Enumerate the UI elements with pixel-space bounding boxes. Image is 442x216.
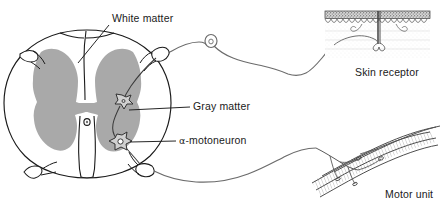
label-motor-unit: Motor unit xyxy=(385,188,433,200)
efferent-axon-to-muscle xyxy=(154,148,316,182)
skin-receptor-inset xyxy=(325,11,430,58)
motor-unit-inset xyxy=(312,126,440,197)
ventral-fissure-right xyxy=(93,116,95,177)
dorsal-median-sulcus xyxy=(84,31,86,100)
spinal-cord-cross-section xyxy=(4,30,171,178)
ventral-fissure-left xyxy=(79,116,81,177)
dorsal-root-proximal xyxy=(170,42,209,52)
ventral-rootlet-left xyxy=(24,162,57,178)
gray-commissure xyxy=(75,103,100,112)
dorsal-root-ganglion xyxy=(205,35,217,48)
gray-matter-left-horn xyxy=(33,49,88,151)
central-canal-lumen xyxy=(86,121,88,124)
spinal-reflex-arc-figure: White matter Gray matter α-motoneuron Sk… xyxy=(0,0,442,216)
label-motoneuron-text: motoneuron xyxy=(189,134,247,146)
label-skin-receptor: Skin receptor xyxy=(355,66,419,78)
gray-matter-right-horn xyxy=(85,49,141,152)
label-gray-matter: Gray matter xyxy=(193,100,250,112)
ventral-fissure-base xyxy=(81,177,93,178)
leader-line-motoneuron xyxy=(130,141,176,142)
afferent-axon-to-skin xyxy=(214,45,334,75)
afferent-nerve-pathway xyxy=(170,35,334,76)
label-alpha-motoneuron: α-motoneuron xyxy=(179,134,247,146)
label-white-matter: White matter xyxy=(112,12,173,24)
dorsal-surface-left xyxy=(60,33,84,38)
label-alpha-symbol: α- xyxy=(179,135,189,146)
